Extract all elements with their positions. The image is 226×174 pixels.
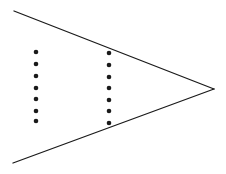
- dot: [34, 74, 39, 79]
- dot: [107, 51, 112, 56]
- lower-converging-line: [13, 89, 214, 163]
- upper-converging-line: [14, 11, 214, 89]
- left-dot-column: [34, 50, 39, 124]
- dot: [107, 98, 112, 103]
- dot: [34, 62, 39, 67]
- dot: [107, 75, 112, 80]
- diagram-svg: [0, 0, 226, 174]
- dot: [107, 86, 112, 91]
- dot: [34, 119, 39, 124]
- dot: [107, 63, 112, 68]
- dot: [34, 109, 39, 114]
- dot: [107, 121, 112, 126]
- dot: [107, 109, 112, 114]
- illusion-diagram: [0, 0, 226, 174]
- dot: [34, 86, 39, 91]
- dot: [34, 97, 39, 102]
- dot: [34, 50, 39, 55]
- right-dot-column: [107, 51, 112, 126]
